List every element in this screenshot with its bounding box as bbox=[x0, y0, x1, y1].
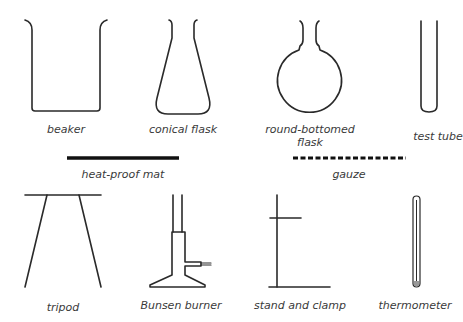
label-tripod: tripod bbox=[47, 301, 80, 314]
test-tube-drawing bbox=[421, 21, 437, 112]
label-conical-flask: conical flask bbox=[149, 123, 217, 136]
beaker-drawing bbox=[25, 20, 107, 111]
label-stand-and-clamp: stand and clamp bbox=[254, 299, 346, 312]
label-round-bottomed-flask-line2: flask bbox=[297, 136, 323, 149]
label-test-tube: test tube bbox=[413, 130, 463, 143]
label-heat-proof-mat: heat-proof mat bbox=[82, 168, 165, 181]
stand-and-clamp-drawing bbox=[269, 195, 330, 287]
tripod-drawing bbox=[25, 195, 101, 287]
bunsen-burner-drawing bbox=[150, 195, 211, 287]
label-gauze: gauze bbox=[332, 168, 365, 181]
round-bottomed-flask-drawing bbox=[278, 21, 342, 112]
label-bunsen-burner: Bunsen burner bbox=[140, 299, 221, 312]
label-beaker: beaker bbox=[47, 123, 85, 136]
conical-flask-drawing bbox=[156, 20, 210, 114]
thermometer-drawing bbox=[413, 196, 420, 287]
label-round-bottomed-flask-line1: round-bottomed bbox=[265, 123, 355, 136]
label-thermometer: thermometer bbox=[378, 299, 451, 312]
